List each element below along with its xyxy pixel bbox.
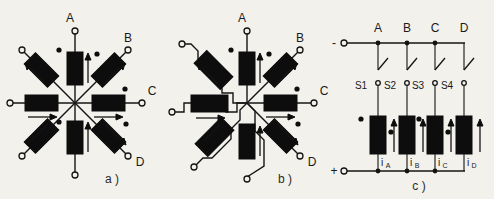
panel-c: - + S1 A i A: [330, 21, 483, 193]
panel-b-coil-upper-left: [194, 51, 233, 90]
arrow-right: [94, 114, 123, 120]
node-a-return: [376, 169, 381, 174]
terminal-positive: [341, 168, 347, 174]
arrow-left: [28, 114, 57, 120]
switch-s2-label: S2: [384, 80, 397, 91]
panel-b-coil-right: [264, 95, 297, 111]
switch-s3-pivot[interactable]: [433, 81, 438, 86]
panel-b-label-a: A: [238, 11, 246, 25]
switch-s2-pivot[interactable]: [405, 81, 410, 86]
coil-a-polarity-dot: [358, 116, 363, 121]
terminal-d-node: [125, 153, 131, 159]
panel-b-arrow-left: [196, 115, 225, 121]
terminal-negative: [341, 40, 347, 46]
current-c-label: i: [438, 157, 440, 168]
figure-canvas: A B C D a ): [0, 0, 494, 199]
current-a-label: i: [381, 157, 383, 168]
panel-a-caption: a ): [105, 172, 119, 186]
switch-s2-blade[interactable]: [407, 58, 417, 70]
switch-s1-blade[interactable]: [378, 58, 388, 70]
panel-b-dot-lr: [295, 121, 300, 126]
arrow-top: [85, 53, 91, 83]
panel-b-coil-bottom: [239, 124, 255, 159]
polarity-dot-top: [56, 47, 61, 52]
current-b-sub: B: [415, 162, 420, 169]
panel-a-label-c: C: [148, 84, 157, 98]
switch-s1-label: S1: [355, 80, 368, 91]
coil-phase-d: [456, 116, 472, 154]
panel-b-arrow-bottom: [257, 126, 263, 156]
arrow-bottom: [85, 122, 91, 152]
panel-b-terminal-d: [297, 153, 303, 159]
label-positive: +: [330, 164, 337, 178]
panel-b-label-d: D: [308, 155, 317, 169]
polarity-dot-ur: [94, 51, 99, 56]
panel-b-coil-top: [239, 52, 255, 85]
switch-s4-blade[interactable]: [464, 58, 474, 70]
node-b-return: [405, 169, 410, 174]
panel-b-coil-lower-left: [195, 118, 234, 157]
polarity-dot-lr: [123, 121, 128, 126]
panel-b-dot-ur: [266, 51, 271, 56]
current-a-sub: A: [386, 162, 391, 169]
panel-b-terminal-a: [244, 28, 250, 34]
panel-b-terminal-free-ll: [191, 164, 197, 170]
panel-b-arrow-top: [257, 53, 263, 83]
panel-b-terminal-free-ul: [179, 41, 185, 47]
terminal-free-ll: [19, 153, 25, 159]
panel-b: A B C D b ): [169, 11, 329, 186]
coil-phase-c: [427, 116, 443, 154]
switch-s1-pivot[interactable]: [376, 81, 381, 86]
panel-a: A B C D a ): [7, 11, 157, 186]
switch-s4-label: S4: [441, 80, 454, 91]
branch-c: S3 C i C: [412, 21, 454, 173]
label-negative: -: [332, 36, 336, 50]
panel-b-terminal-b: [297, 47, 303, 53]
coil-d-polarity-dot: [445, 129, 450, 134]
switch-s3-label: S3: [412, 80, 425, 91]
node-c-return: [433, 169, 438, 174]
branch-a: S1 A i A: [355, 21, 397, 173]
node-b-label: B: [403, 21, 411, 35]
node-d-label: D: [460, 21, 469, 35]
panel-b-coil-left: [191, 95, 228, 112]
panel-a-label-d: D: [136, 155, 145, 169]
panel-a-label-a: A: [66, 11, 74, 25]
terminal-free-b: [72, 172, 78, 178]
panel-b-label-b: B: [296, 31, 304, 45]
coil-phase-a: [370, 116, 386, 154]
panel-b-caption: b ): [278, 172, 292, 186]
panel-b-dot-right: [294, 86, 299, 91]
coil-phase-b: [399, 116, 415, 154]
polarity-dot-bottom: [56, 119, 61, 124]
panel-b-arrow-right: [266, 114, 295, 120]
terminal-a-node: [72, 28, 78, 34]
coil-c-polarity-dot: [416, 116, 421, 121]
coil-top: [67, 52, 83, 85]
terminal-free-ul: [19, 47, 25, 53]
panel-b-label-c: C: [320, 84, 329, 98]
terminal-free-l: [7, 100, 13, 106]
coil-bottom: [67, 121, 83, 154]
panel-a-label-b: B: [124, 31, 132, 45]
switch-s3-blade[interactable]: [435, 58, 445, 70]
current-c-sub: C: [442, 162, 447, 169]
current-b-label: i: [410, 157, 412, 168]
node-a-label: A: [374, 21, 382, 35]
switch-s4-pivot[interactable]: [462, 81, 467, 86]
panel-b-terminal-free-l: [169, 109, 175, 115]
node-c-label: C: [431, 21, 440, 35]
coil-left: [25, 95, 58, 111]
panel-b-dot-top: [228, 47, 233, 52]
coil-b-polarity-dot: [388, 129, 393, 134]
panel-b-terminal-c: [311, 100, 317, 106]
branch-b: S2 B i B: [384, 21, 426, 173]
panel-c-caption: c ): [412, 179, 425, 193]
current-d-sub: D: [471, 162, 476, 169]
polarity-dot-right: [122, 86, 127, 91]
terminal-c-node: [139, 100, 145, 106]
coil-right: [92, 95, 125, 111]
terminal-b-node: [125, 47, 131, 53]
current-d-label: i: [467, 157, 469, 168]
panel-b-terminal-free-b: [244, 176, 250, 182]
